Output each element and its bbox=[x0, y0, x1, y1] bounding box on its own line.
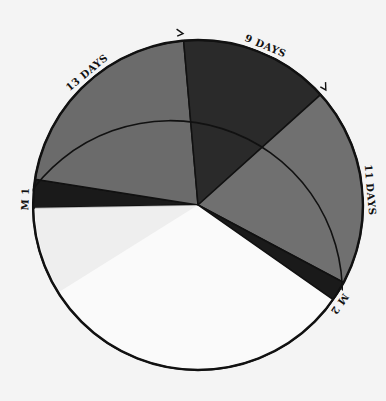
segments-group bbox=[33, 40, 363, 370]
arrow-icon bbox=[320, 82, 326, 90]
arc-label-m-1: M 1 bbox=[19, 187, 31, 210]
cycle-diagram: M 113 DAYS9 DAYS11 DAYSM 2 bbox=[0, 0, 386, 401]
segment-13-days bbox=[35, 41, 198, 205]
arrow-icon bbox=[177, 29, 183, 36]
